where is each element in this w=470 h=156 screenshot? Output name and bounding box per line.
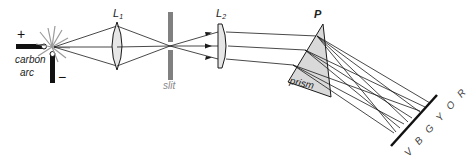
plus-label: + (17, 27, 25, 41)
carbon-label: carbon (15, 55, 46, 65)
lens-2-icon (218, 24, 226, 68)
lens-1-icon (112, 22, 122, 70)
slit-label: slit (163, 81, 175, 91)
arc-label: arc (20, 68, 34, 78)
prism-letter-label: P (314, 9, 321, 20)
lens-1-subscript: 1 (119, 13, 123, 20)
rays-source-to-lens1 (54, 26, 117, 66)
lens-2-subscript: 2 (222, 13, 226, 20)
lens-1-label: L1 (113, 8, 123, 20)
lens-2-label: L2 (216, 8, 226, 20)
minus-label: − (58, 70, 66, 84)
rays-lens1-to-lens2 (117, 26, 218, 66)
